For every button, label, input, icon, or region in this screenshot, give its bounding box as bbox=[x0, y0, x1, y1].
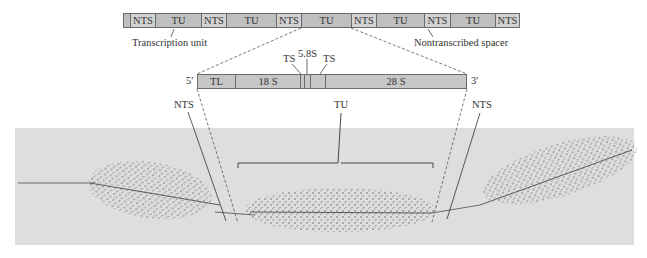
fibrils bbox=[18, 122, 644, 232]
diagram-lines bbox=[0, 0, 647, 258]
